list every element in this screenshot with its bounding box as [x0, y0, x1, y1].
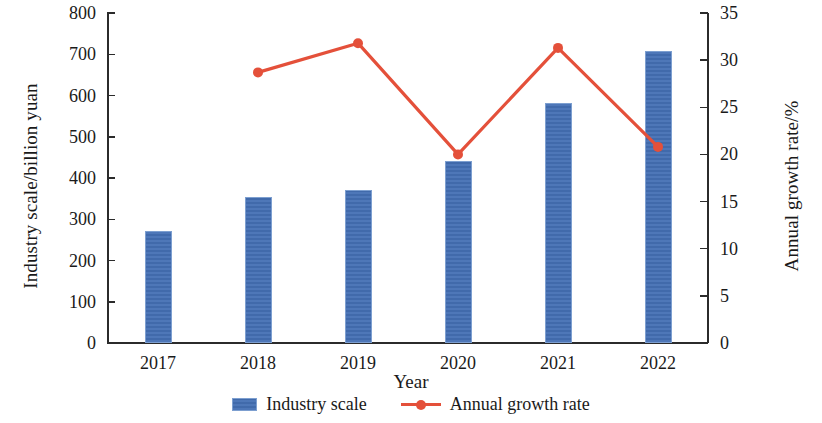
x-tick-label: 2020 [413, 353, 503, 374]
line-series [108, 13, 708, 343]
left-tick-label: 500 [16, 128, 96, 146]
right-tick-label: 25 [720, 98, 800, 116]
data-point-marker [253, 67, 263, 77]
right-tick-label: 15 [720, 193, 800, 211]
left-tick-label: 300 [16, 210, 96, 228]
left-tick-label: 800 [16, 4, 96, 22]
data-point-marker [653, 142, 663, 152]
x-tick-label: 2019 [313, 353, 403, 374]
legend-line-marker-icon [401, 398, 441, 411]
left-tick-label: 600 [16, 87, 96, 105]
plot-area: 0100200300400500600700800 05101520253035… [108, 13, 708, 343]
chart-legend: Industry scaleAnnual growth rate [0, 394, 822, 415]
right-tick-label: 30 [720, 51, 800, 69]
x-tick-label: 2022 [613, 353, 703, 374]
legend-entry: Annual growth rate [401, 394, 590, 415]
left-tick-label: 700 [16, 45, 96, 63]
data-point-marker [353, 38, 363, 48]
x-axis-title: Year [0, 371, 822, 393]
right-tick-label: 10 [720, 240, 800, 258]
left-tick-label: 100 [16, 293, 96, 311]
right-tick-label: 5 [720, 287, 800, 305]
legend-label: Industry scale [266, 394, 366, 415]
left-tick-label: 200 [16, 252, 96, 270]
growth-rate-line [258, 43, 658, 154]
legend-bar-swatch-icon [232, 398, 257, 411]
right-tick-label: 0 [720, 334, 800, 352]
right-tick-label: 20 [720, 145, 800, 163]
legend-entry: Industry scale [232, 394, 366, 415]
right-tick-label: 35 [720, 4, 800, 22]
data-point-marker [453, 149, 463, 159]
x-tick-label: 2017 [113, 353, 203, 374]
x-tick-label: 2018 [213, 353, 303, 374]
data-point-marker [553, 43, 563, 53]
chart-figure: Industry scale/billion yuan Annual growt… [0, 0, 822, 423]
legend-label: Annual growth rate [450, 394, 590, 415]
left-tick-label: 0 [16, 334, 96, 352]
left-tick-label: 400 [16, 169, 96, 187]
x-tick-label: 2021 [513, 353, 603, 374]
